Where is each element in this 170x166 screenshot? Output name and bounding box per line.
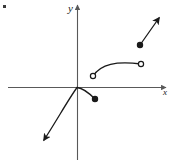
closed-endpoint-dot [92, 96, 97, 101]
open-endpoint-circle [138, 61, 143, 66]
closed-endpoint-dot [137, 42, 142, 47]
y-axis-label: y [67, 2, 73, 14]
figure-background [0, 0, 170, 166]
graph-canvas: y x [0, 0, 170, 166]
open-endpoint-circle [90, 73, 95, 78]
corner-tick-mark [3, 5, 6, 8]
graph-figure: y x [0, 0, 170, 166]
x-axis-label: x [162, 87, 167, 97]
